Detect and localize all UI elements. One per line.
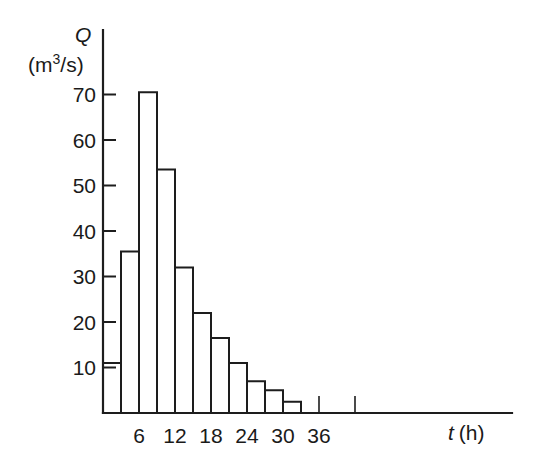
y-tick-labels: 70 60 50 40 30 20 10 — [73, 83, 96, 379]
chart-svg: 70 60 50 40 30 20 10 6 12 18 24 30 36 — [0, 0, 540, 473]
x-tick-label: 12 — [163, 424, 186, 447]
histogram-bar — [175, 267, 193, 413]
histogram-bar — [229, 363, 247, 413]
x-tick-label: 24 — [235, 424, 259, 447]
histogram-bar — [283, 402, 301, 413]
x-tick-label: 6 — [133, 424, 145, 447]
x-axis-title: t(h) — [448, 421, 485, 444]
y-axis-ticks — [103, 95, 116, 368]
x-tick-label: 36 — [307, 424, 330, 447]
y-tick-label: 70 — [73, 83, 96, 106]
histogram-bar — [265, 390, 283, 413]
hydrograph-chart: 70 60 50 40 30 20 10 6 12 18 24 30 36 — [0, 0, 540, 473]
y-tick-label: 50 — [73, 174, 96, 197]
y-tick-label: 60 — [73, 129, 96, 152]
y-tick-label: 10 — [73, 356, 96, 379]
x-tick-label: 30 — [271, 424, 294, 447]
y-tick-label: 20 — [73, 311, 96, 334]
histogram-bar — [121, 251, 139, 413]
histogram-bar — [247, 381, 265, 413]
x-tick-label: 18 — [199, 424, 222, 447]
histogram-bar — [193, 313, 211, 413]
histogram-bar — [139, 92, 157, 413]
y-tick-label: 30 — [73, 265, 96, 288]
y-axis-title-unit: (m3/s) — [28, 51, 84, 76]
x-tick-labels: 6 12 18 24 30 36 — [133, 424, 331, 447]
histogram-bars — [103, 92, 301, 413]
histogram-bar — [157, 170, 175, 413]
histogram-bar — [103, 363, 121, 413]
y-tick-label: 40 — [73, 220, 96, 243]
y-axis-title-symbol: Q — [75, 23, 91, 46]
histogram-bar — [211, 338, 229, 413]
